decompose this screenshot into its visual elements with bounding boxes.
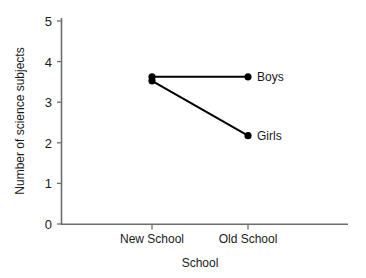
data-point-girls-old-school	[244, 132, 251, 139]
y-tick-label-1: 1	[45, 176, 52, 191]
chart-plot-area: 5 4 3 2 1 0 New School Old School School…	[0, 0, 366, 278]
series-label-girls: Girls	[257, 129, 282, 143]
y-tick-label-5: 5	[45, 14, 52, 29]
series-label-boys: Boys	[257, 70, 284, 84]
data-point-girls-new-school	[148, 77, 155, 84]
y-axis-title: Number of science subjects	[13, 47, 27, 194]
y-tick-label-3: 3	[45, 95, 52, 110]
series-line-girls	[152, 81, 248, 136]
y-tick-label-4: 4	[45, 55, 52, 70]
data-point-boys-old-school	[244, 73, 251, 80]
x-axis-title: School	[182, 256, 219, 270]
x-category-label-old-school: Old School	[219, 232, 278, 246]
y-tick-label-2: 2	[45, 136, 52, 151]
x-category-label-new-school: New School	[120, 232, 184, 246]
line-chart-figure: 5 4 3 2 1 0 New School Old School School…	[0, 0, 366, 278]
y-tick-label-0: 0	[45, 217, 52, 232]
